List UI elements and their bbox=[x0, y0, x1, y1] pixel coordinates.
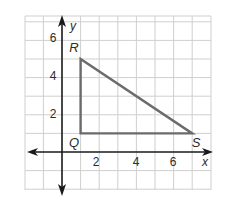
vertex-label-r: R bbox=[69, 40, 78, 55]
tick-label-y-2: 2 bbox=[50, 107, 57, 121]
vertex-label-q: Q bbox=[69, 135, 79, 150]
tick-label-x-6: 6 bbox=[170, 155, 177, 169]
coordinate-plane: 2 4 6 2 4 6 x y R Q S bbox=[0, 0, 225, 204]
tick-label-y-6: 6 bbox=[50, 31, 57, 45]
x-axis-label: x bbox=[201, 155, 209, 169]
tick-label-x-2: 2 bbox=[93, 155, 100, 169]
y-axis-label: y bbox=[69, 19, 77, 33]
tick-label-x-4: 4 bbox=[133, 155, 140, 169]
tick-label-y-4: 4 bbox=[50, 69, 57, 83]
vertex-label-s: S bbox=[192, 135, 201, 150]
